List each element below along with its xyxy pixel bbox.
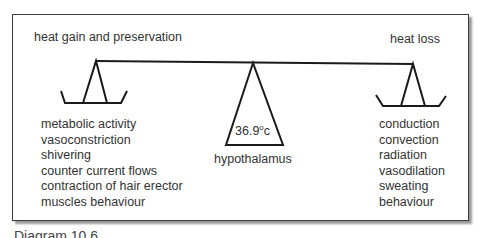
heat-loss-list: conduction convection radiation vasodila… [379, 117, 445, 211]
heat-gain-item: vasoconstriction [41, 133, 183, 149]
heat-loss-item: behaviour [379, 195, 445, 211]
heat-loss-item: radiation [379, 148, 445, 164]
heat-loss-heading: heat loss [390, 32, 440, 48]
left-pan-support [83, 61, 107, 103]
heat-loss-item: sweating [379, 179, 445, 195]
set-point-temperature: 36.9oc [235, 123, 270, 138]
right-pan [376, 95, 446, 106]
hypothalamus-label: hypothalamus [214, 152, 292, 168]
figure-caption: Diagram 10.6 [14, 228, 98, 238]
heat-gain-item: muscles behaviour [41, 195, 183, 211]
heat-loss-item: convection [379, 133, 445, 149]
heat-loss-item: vasodilation [379, 164, 445, 180]
heat-gain-heading: heat gain and preservation [34, 30, 182, 46]
heat-loss-item: conduction [379, 117, 445, 133]
temperature-unit: c [264, 124, 270, 138]
left-pan [61, 91, 127, 103]
right-pan-support [401, 64, 425, 106]
temperature-value: 36.9 [235, 124, 259, 138]
heat-gain-list: metabolic activity vasoconstriction shiv… [41, 117, 183, 211]
heat-gain-item: contraction of hair erector [41, 179, 183, 195]
heat-gain-item: shivering [41, 148, 183, 164]
balance-beam [96, 61, 413, 64]
heat-gain-item: counter current flows [41, 164, 183, 180]
heat-gain-item: metabolic activity [41, 117, 183, 133]
